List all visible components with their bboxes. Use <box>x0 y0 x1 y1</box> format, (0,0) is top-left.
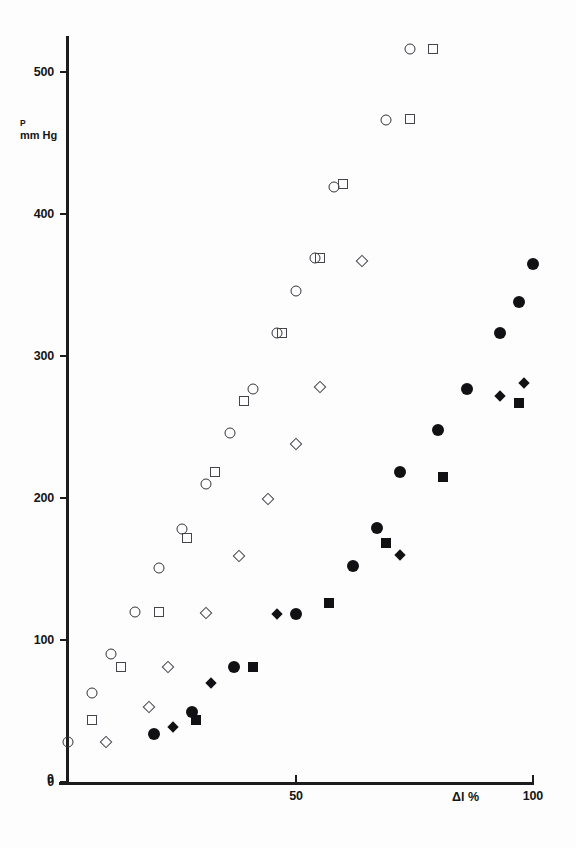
data-point-open-circle <box>224 427 235 438</box>
data-point-filled-circle <box>432 424 444 436</box>
data-point-open-diamond <box>200 607 213 620</box>
data-point-open-circle <box>200 478 211 489</box>
data-point-filled-square <box>191 715 201 725</box>
data-point-filled-square <box>514 398 524 408</box>
data-point-filled-diamond <box>271 609 282 620</box>
data-point-open-diamond <box>290 438 303 451</box>
data-point-filled-diamond <box>167 721 178 732</box>
data-point-filled-circle <box>461 383 473 395</box>
data-point-open-square <box>116 662 126 672</box>
data-point-open-circle <box>129 606 140 617</box>
data-point-open-circle <box>153 562 164 573</box>
data-point-open-diamond <box>233 550 246 563</box>
data-point-open-circle <box>63 737 74 748</box>
data-point-open-square <box>182 533 192 543</box>
data-point-open-square <box>87 715 97 725</box>
data-point-open-diamond <box>261 493 274 506</box>
data-point-filled-circle <box>148 728 160 740</box>
data-point-filled-circle <box>527 258 539 270</box>
data-point-filled-square <box>324 598 334 608</box>
data-point-open-diamond <box>313 381 326 394</box>
scatter-plot-figure: P mm Hg Δl % 0100200300400500050100 <box>0 0 576 848</box>
data-point-open-circle <box>248 383 259 394</box>
data-point-open-circle <box>106 649 117 660</box>
data-point-filled-circle <box>394 466 406 478</box>
data-point-filled-diamond <box>205 677 216 688</box>
data-point-open-diamond <box>100 736 113 749</box>
data-point-open-square <box>239 396 249 406</box>
data-point-filled-circle <box>290 608 302 620</box>
data-point-open-square <box>210 467 220 477</box>
data-point-open-circle <box>291 285 302 296</box>
data-point-open-diamond <box>162 661 175 674</box>
data-point-open-square <box>338 179 348 189</box>
data-point-open-square <box>315 253 325 263</box>
data-point-open-square <box>428 44 438 54</box>
data-point-open-circle <box>87 687 98 698</box>
data-point-filled-diamond <box>518 377 529 388</box>
data-point-filled-diamond <box>395 549 406 560</box>
data-point-open-diamond <box>143 700 156 713</box>
data-point-filled-circle <box>371 522 383 534</box>
data-point-filled-circle <box>513 296 525 308</box>
data-point-open-circle <box>381 115 392 126</box>
data-point-filled-square <box>438 472 448 482</box>
data-point-filled-circle <box>347 560 359 572</box>
data-markers-layer <box>0 0 576 848</box>
data-point-filled-diamond <box>494 390 505 401</box>
data-point-filled-square <box>381 538 391 548</box>
data-point-filled-circle <box>228 661 240 673</box>
data-point-filled-circle <box>494 327 506 339</box>
data-point-open-square <box>405 114 415 124</box>
data-point-open-square <box>154 607 164 617</box>
data-point-open-square <box>277 328 287 338</box>
data-point-filled-square <box>248 662 258 672</box>
data-point-open-circle <box>404 44 415 55</box>
data-point-open-diamond <box>356 254 369 267</box>
